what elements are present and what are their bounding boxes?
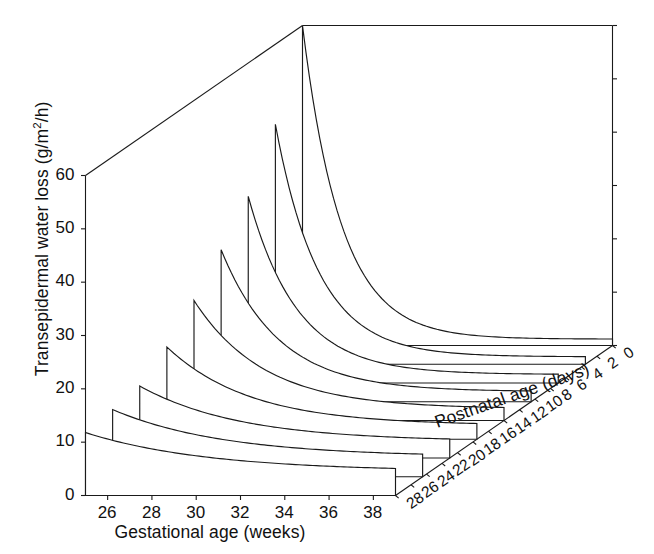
y-tick-label: 30 <box>35 325 75 345</box>
waterfall-plot-svg <box>0 0 654 554</box>
x-axis-title: Gestational age (weeks) <box>60 522 360 543</box>
x-tick-label: 30 <box>186 503 205 523</box>
x-axis-title-text: Gestational age (weeks) <box>114 522 305 542</box>
y-axis-title-suffix: /h) <box>32 102 52 123</box>
x-tick-label: 26 <box>98 503 117 523</box>
x-tick-label: 34 <box>275 503 294 523</box>
y-tick-label: 40 <box>35 271 75 291</box>
x-tick-label: 28 <box>142 503 161 523</box>
y-tick-label: 60 <box>35 165 75 185</box>
y-tick-label: 50 <box>35 218 75 238</box>
y-tick-label: 20 <box>35 378 75 398</box>
chart-figure: Transepidermal water loss (g/m2/h) Gesta… <box>0 0 654 554</box>
y-tick-label: 10 <box>35 431 75 451</box>
x-tick-label: 32 <box>231 503 250 523</box>
y-axis-title-superscript: 2 <box>31 122 43 129</box>
y-tick-label: 0 <box>35 485 75 505</box>
x-tick-label: 38 <box>363 503 382 523</box>
x-tick-label: 36 <box>319 503 338 523</box>
ridge-curve <box>303 26 613 346</box>
